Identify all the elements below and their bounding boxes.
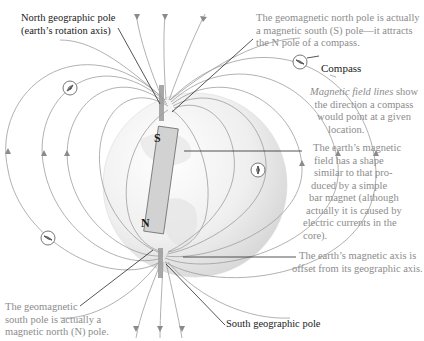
label-line: The geomagnetic [5,301,109,314]
label-line: a magnetic south (S) pole—it attracts [256,25,420,38]
label-line: location. [304,124,424,137]
magnet-south-pole-label: S [154,131,161,146]
field-shape-note: The earth’s magnetic field has a shape s… [313,142,402,242]
label-line: The earth’s magnetic [313,142,402,155]
label-line: The earth’s magnetic axis is [292,250,423,263]
axis-offset-note: The earth’s magnetic axis is offset from… [292,250,423,275]
compass-icon [251,163,265,177]
italic-term: Magnetic field lines [310,86,393,97]
geomagnetic-south-note: The geomagnetic south pole is actually a… [5,301,109,339]
compass-icon [293,55,307,69]
compass-icon [63,81,77,95]
compass-label: Compass [321,62,361,75]
label-line: core). [303,230,402,243]
label-line: the N pole of a compass. [256,37,420,50]
label-line: magnetic north (N) pole. [5,326,109,339]
label-line: duced by a simple [311,180,402,193]
label-line: south pole is actually a [5,314,109,327]
label-line: Magnetic field lines show [304,86,424,99]
label-text: show [393,86,418,97]
label-line: actually it is caused by [306,205,402,218]
geomagnetic-north-note: The geomagnetic north pole is actually a… [256,12,420,50]
north-geographic-pole-label: North geographic pole (earth’s rotation … [21,12,115,37]
label-line: electric currents in the [303,217,402,230]
label-line: field has a shape [313,155,402,168]
label-line: would point at a given [304,111,424,124]
label-line: similar to that pro- [313,167,402,180]
compass-icon [41,231,55,245]
south-geographic-pole-label: South geographic pole [226,318,320,331]
magnet-north-pole-label: N [141,216,150,231]
field-lines-note: Magnetic field lines show the direction … [304,86,424,136]
label-line: North geographic pole [21,12,115,25]
label-line: offset from its geographic axis. [292,263,423,276]
label-line: the direction a compass [304,99,424,112]
label-line: (earth’s rotation axis) [21,25,115,38]
label-line: bar magnet (although [309,192,402,205]
label-line: The geomagnetic north pole is actually [256,12,420,25]
